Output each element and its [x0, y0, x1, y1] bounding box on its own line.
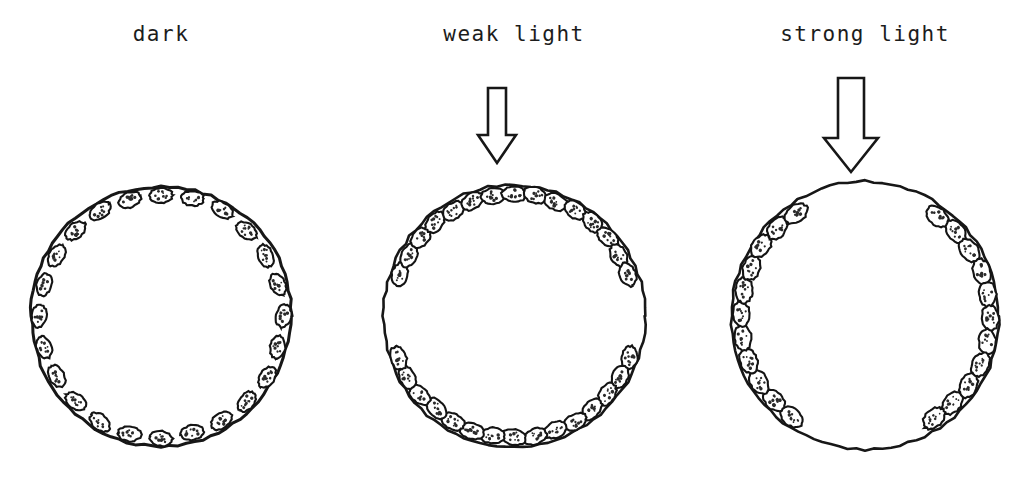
- chloroplast: [735, 277, 753, 304]
- figure-root: darkweak lightstrong light: [0, 0, 1028, 485]
- panel-drawing-strong-light: [0, 0, 1028, 485]
- downward-arrow-strong-icon: [824, 78, 878, 172]
- panel-strong-light: strong light: [0, 0, 1028, 485]
